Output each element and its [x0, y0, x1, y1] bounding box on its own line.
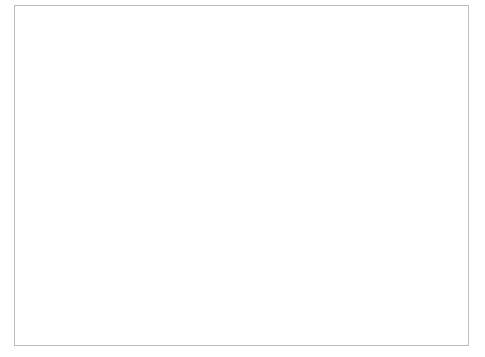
chart-container: 0255075100051015201880189019001910192019…	[0, 0, 485, 357]
chart-frame	[14, 5, 469, 346]
